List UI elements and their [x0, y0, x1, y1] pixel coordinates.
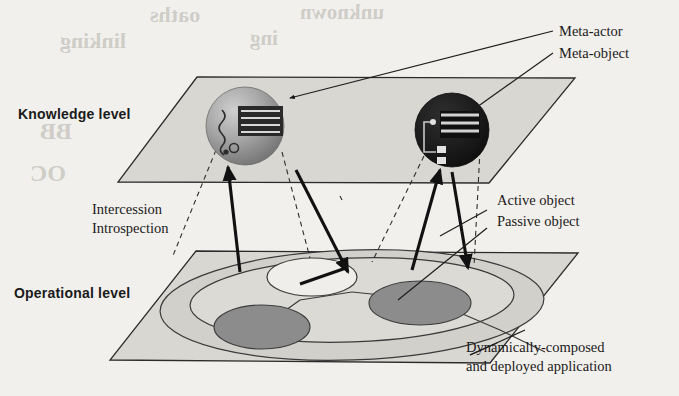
dark-object-ellipse-left — [214, 305, 310, 349]
meta-actor-label: Meta-actor — [559, 22, 623, 41]
introspection-label: Introspection — [92, 219, 169, 238]
meta-object-label: Meta-object — [559, 44, 629, 63]
application-caption-line2: and deployed application — [466, 357, 612, 376]
application-caption-line1: Dynamically-composed — [466, 338, 605, 357]
passive-object-label: Passive object — [497, 212, 580, 231]
active-object-label: Active object — [497, 191, 575, 210]
meta-object-sphere — [415, 93, 489, 167]
operational-level-label: Operational level — [14, 285, 130, 301]
figure-canvas: oaths unknown linking ing BB OC — [0, 0, 679, 396]
dark-object-ellipse-right — [369, 281, 471, 325]
meta-actor-sphere — [206, 87, 284, 165]
intercession-label: Intercession — [92, 200, 162, 219]
knowledge-level-label: Knowledge level — [18, 106, 131, 122]
knowledge-plane — [118, 77, 575, 183]
